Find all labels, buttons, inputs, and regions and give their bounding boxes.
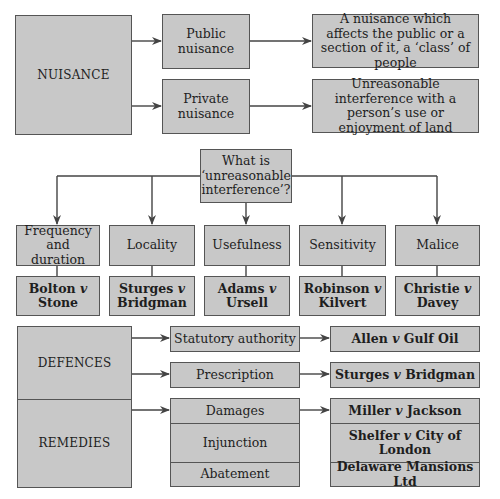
factor-frequency-box: Frequency and duration xyxy=(16,225,100,266)
defence-prescription: Prescription xyxy=(170,362,300,388)
case-robinson-kilvert: Robinson vKilvert xyxy=(299,276,386,316)
public-nuisance-definition: A nuisance which affects the public or a… xyxy=(312,14,479,68)
factor-malice-label: Malice xyxy=(416,238,459,253)
remedy-cases-list: Miller v Jackson Shelfer v City ofLondon… xyxy=(330,398,480,487)
factor-sensitivity-box: Sensitivity xyxy=(299,225,386,266)
factor-locality-box: Locality xyxy=(109,225,195,266)
case-adams-ursell: Adams vUrsell xyxy=(204,276,290,316)
case-miller-jackson: Miller v Jackson xyxy=(331,399,479,423)
nuisance-root-label: NUISANCE xyxy=(37,68,109,83)
defences-label-cell: DEFENCES xyxy=(18,327,131,399)
case-christie-davey: Christie vDavey xyxy=(395,276,480,316)
defence-statutory-authority: Statutory authority xyxy=(170,326,300,352)
statutory-authority-label: Statutory authority xyxy=(174,332,296,347)
case-sturges-bridgman: Sturges vBridgman xyxy=(109,276,195,316)
factor-malice-box: Malice xyxy=(395,225,480,266)
factor-sensitivity-label: Sensitivity xyxy=(309,238,376,253)
public-definition-text: A nuisance which affects the public or a… xyxy=(319,12,472,70)
factor-locality-label: Locality xyxy=(127,238,177,253)
public-nuisance-label: Public nuisance xyxy=(163,27,249,56)
private-nuisance-label: Private nuisance xyxy=(163,92,249,121)
case-bolton-stone: Bolton vStone xyxy=(16,276,100,316)
case-delaware-mansions: Delaware Mansions Ltd xyxy=(331,462,479,486)
defences-label: DEFENCES xyxy=(38,356,112,371)
remedies-label-cell: REMEDIES xyxy=(18,399,131,487)
remedies-label: REMEDIES xyxy=(39,436,111,451)
nuisance-root-box: NUISANCE xyxy=(15,15,132,135)
private-nuisance-box: Private nuisance xyxy=(162,79,250,134)
factor-usefulness-label: Usefulness xyxy=(212,238,281,253)
remedies-list: Damages Injunction Abatement xyxy=(170,398,300,487)
factor-frequency-label: Frequency and duration xyxy=(21,224,95,268)
remedy-abatement: Abatement xyxy=(171,462,299,486)
private-definition-text: Unreasonable interference with a person’… xyxy=(319,77,472,135)
question-box: What is ‘unreasonable interference’? xyxy=(200,149,292,203)
defences-remedies-box: DEFENCES REMEDIES xyxy=(17,326,132,488)
public-nuisance-box: Public nuisance xyxy=(162,14,250,69)
remedy-damages: Damages xyxy=(171,399,299,423)
case-shelfer-city-of-london: Shelfer v City ofLondon xyxy=(331,423,479,462)
private-nuisance-definition: Unreasonable interference with a person’… xyxy=(312,79,479,133)
prescription-label: Prescription xyxy=(196,368,274,383)
question-text: What is ‘unreasonable interference’? xyxy=(201,154,291,198)
factor-usefulness-box: Usefulness xyxy=(204,225,290,266)
remedy-injunction: Injunction xyxy=(171,423,299,462)
case-allen-gulf-oil: Allen v Gulf Oil xyxy=(330,326,480,352)
case-sturges-bridgman-prescription: Sturges v Bridgman xyxy=(330,362,480,388)
